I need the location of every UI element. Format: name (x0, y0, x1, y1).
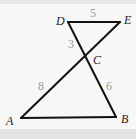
length-label-DE: 5 (90, 6, 96, 20)
segment-DB (68, 22, 116, 117)
point-label-D: D (55, 14, 65, 28)
length-label-DC: 3 (68, 37, 74, 51)
segment-AB (21, 117, 116, 118)
geometry-diagram: D E C A B 5 3 8 6 (0, 0, 136, 139)
length-label-AC: 8 (38, 79, 44, 93)
point-label-B: B (121, 112, 129, 126)
point-label-C: C (93, 53, 102, 67)
point-label-A: A (5, 114, 14, 128)
length-label-CB: 6 (106, 79, 112, 93)
point-label-E: E (123, 13, 132, 27)
